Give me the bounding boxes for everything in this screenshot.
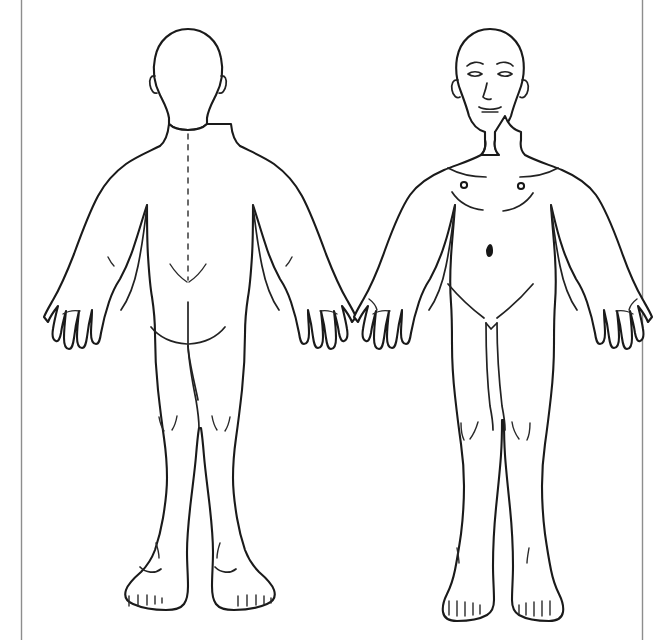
right-nipple: [518, 183, 524, 189]
body-diagram-page: Human Body Diagram Two full-body line-ar…: [0, 0, 665, 640]
left-nipple: [461, 182, 467, 188]
body-diagram-canvas: [0, 0, 665, 640]
